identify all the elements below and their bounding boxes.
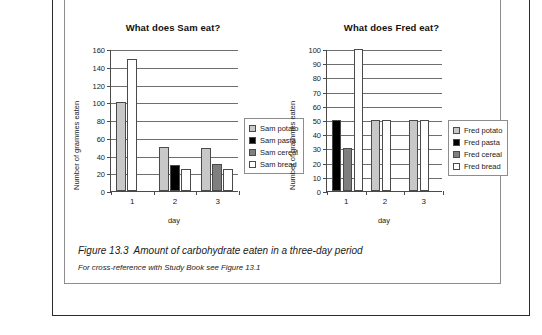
y-axis-tick [323, 178, 327, 179]
x-axis-tick [443, 191, 444, 195]
x-axis-tick-label: 3 [421, 197, 425, 206]
legend-item-potato[interactable]: Fred potato [453, 124, 502, 136]
bar-fred-day3-potato [409, 120, 418, 191]
y-axis-tick-label: 70 [313, 88, 321, 97]
gridline [327, 50, 442, 51]
chart-sam-y-axis-title: Number of grammes eaten [72, 101, 81, 190]
bar-sam-day3-bread [223, 169, 233, 191]
chart-fred-x-axis-title: day [378, 216, 390, 225]
x-axis-tick [154, 191, 155, 195]
y-axis-tick [323, 50, 327, 51]
x-axis-tick-label: 2 [383, 197, 387, 206]
y-axis-tick-label: 100 [92, 99, 105, 108]
y-axis-tick [107, 50, 111, 51]
x-axis-tick-label: 1 [130, 197, 134, 206]
y-axis-tick-label: 60 [97, 134, 105, 143]
y-axis-tick [107, 121, 111, 122]
figure-caption-text: Amount of carbohydrate eaten in a three-… [134, 245, 363, 256]
figure-caption-block: Figure 13.3Amount of carbohydrate eaten … [78, 244, 488, 272]
legend-label: Fred pasta [464, 138, 500, 147]
chart-fred-title: What does Fred eat? [282, 22, 501, 33]
chart-fred-plot-area: 0102030405060708090100123 [326, 50, 442, 192]
charts-region: What does Sam eat? Number of grammes eat… [64, 14, 501, 236]
y-axis-tick-label: 120 [92, 81, 105, 90]
y-axis-tick-label: 140 [92, 63, 105, 72]
y-axis-tick [323, 93, 327, 94]
y-axis-tick [323, 149, 327, 150]
y-axis-tick [323, 78, 327, 79]
figure-number: Figure 13.3 [78, 245, 129, 256]
bar-fred-day2-potato [371, 120, 380, 191]
chart-fred-legend: Fred potatoFred pastaFred cerealFred bre… [448, 120, 508, 176]
legend-label: Fred bread [464, 162, 501, 171]
gridline [327, 78, 442, 79]
y-axis-tick [323, 164, 327, 165]
y-axis-tick-label: 60 [313, 102, 321, 111]
chart-sam-title: What does Sam eat? [64, 22, 282, 33]
x-axis-tick [327, 191, 328, 195]
x-axis-tick-label: 2 [173, 197, 177, 206]
figure-caption: Figure 13.3Amount of carbohydrate eaten … [78, 244, 488, 258]
legend-item-cereal[interactable]: Fred cereal [453, 148, 502, 160]
bar-sam-day2-bread [181, 169, 191, 191]
bar-sam-day1-potato [116, 102, 126, 191]
legend-swatch-potato-icon [453, 127, 460, 134]
x-axis-tick [239, 191, 240, 195]
x-axis-tick [196, 191, 197, 195]
x-axis-tick [404, 191, 405, 195]
legend-swatch-bread-icon [453, 163, 460, 170]
bar-sam-day3-potato [201, 148, 211, 191]
legend-swatch-bread-icon [249, 161, 256, 168]
y-axis-tick-label: 20 [313, 159, 321, 168]
x-axis-tick [111, 191, 112, 195]
y-axis-tick-label: 30 [313, 145, 321, 154]
chart-sam-plot-area: 020406080100120140160123 [110, 50, 238, 192]
y-axis-tick-label: 10 [313, 173, 321, 182]
y-axis-tick-label: 80 [97, 117, 105, 126]
x-axis-tick-label: 1 [344, 197, 348, 206]
x-axis-tick-label: 3 [215, 197, 219, 206]
y-axis-tick-label: 20 [97, 170, 105, 179]
bar-fred-day1-bread [354, 49, 363, 191]
bar-sam-day1-bread [127, 59, 137, 191]
legend-swatch-cereal-icon [453, 151, 460, 158]
legend-swatch-pasta-icon [453, 139, 460, 146]
bar-fred-day2-bread [382, 120, 391, 191]
bar-sam-day2-pasta [170, 165, 180, 191]
legend-swatch-potato-icon [249, 125, 256, 132]
y-axis-tick [107, 68, 111, 69]
legend-label: Fred cereal [464, 150, 502, 159]
y-axis-tick [323, 121, 327, 122]
bar-fred-day3-bread [420, 120, 429, 191]
gridline [327, 107, 442, 108]
bar-fred-day1-cereal [343, 148, 352, 191]
chart-sam: What does Sam eat? Number of grammes eat… [64, 14, 282, 236]
gridline [327, 93, 442, 94]
bar-sam-day2-potato [159, 147, 169, 191]
bar-fred-day1-pasta [332, 120, 341, 191]
legend-item-pasta[interactable]: Fred pasta [453, 136, 502, 148]
y-axis-tick-label: 80 [313, 74, 321, 83]
y-axis-tick [323, 64, 327, 65]
x-axis-tick [366, 191, 367, 195]
y-axis-tick-label: 40 [97, 152, 105, 161]
y-axis-tick [323, 135, 327, 136]
chart-fred: What does Fred eat? Number of grammes ea… [282, 14, 501, 236]
gridline [111, 50, 238, 51]
y-axis-tick-label: 90 [313, 60, 321, 69]
legend-item-bread[interactable]: Fred bread [453, 160, 502, 172]
gridline [327, 64, 442, 65]
figure-cross-reference: For cross-reference with Study Book see … [78, 263, 488, 272]
y-axis-tick [107, 103, 111, 104]
y-axis-tick-label: 0 [317, 188, 321, 197]
bar-sam-day3-cereal [212, 164, 222, 191]
chart-fred-y-axis-title: Number of grammes eaten [288, 101, 297, 190]
y-axis-tick-label: 100 [308, 46, 321, 55]
y-axis-tick [107, 139, 111, 140]
legend-swatch-cereal-icon [249, 149, 256, 156]
y-axis-tick [107, 157, 111, 158]
y-axis-tick-label: 40 [313, 131, 321, 140]
legend-label: Fred potato [464, 126, 502, 135]
y-axis-tick-label: 50 [313, 117, 321, 126]
y-axis-tick-label: 0 [101, 188, 105, 197]
